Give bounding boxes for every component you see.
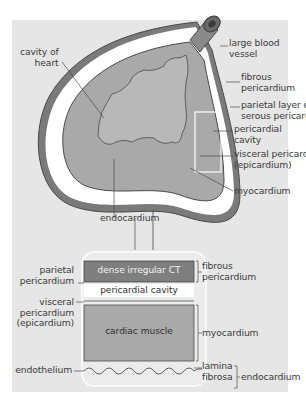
label-endocardium: endocardium bbox=[100, 213, 159, 224]
label-endothelium: endothelium bbox=[10, 365, 72, 376]
band-label-pericardial-cavity: pericardial cavity bbox=[84, 285, 194, 295]
label-large-blood-vessel: large blood vessel bbox=[229, 38, 280, 59]
label-myocardium-inset: myocardium bbox=[202, 328, 258, 339]
label-pericardial-cavity: pericardial cavity bbox=[234, 124, 282, 145]
band-label-dense-irregular-ct: dense irregular CT bbox=[84, 265, 194, 275]
label-fibrous-pericardium: fibrous pericardium bbox=[241, 72, 295, 93]
label-visceral-pericardium-inset: visceral pericardium (epicardium) bbox=[10, 297, 74, 329]
label-fibrous-pericardium-inset: fibrous pericardium bbox=[202, 261, 256, 282]
label-visceral-pericardium: visceral pericardium (epicardium) bbox=[234, 149, 306, 170]
label-myocardium: myocardium bbox=[234, 186, 290, 197]
band-label-cardiac-muscle: cardiac muscle bbox=[84, 326, 194, 336]
label-parietal-pericardium: parietal pericardium bbox=[14, 265, 74, 286]
label-cavity-of-heart: cavity of heart bbox=[20, 47, 59, 68]
label-lamina-fibrosa: lamina fibrosa bbox=[202, 361, 233, 382]
label-endocardium-inset: endocardium bbox=[241, 372, 300, 383]
label-parietal-layer: parietal layer of serous pericardium bbox=[241, 100, 306, 121]
